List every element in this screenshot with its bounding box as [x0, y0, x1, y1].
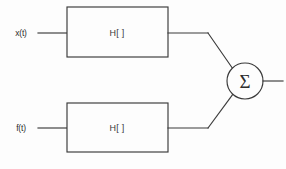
wire-top-filter-to-adder: [208, 33, 233, 69]
wire-bottom-filter-to-adder: [208, 94, 233, 128]
sigma-symbol: Σ: [239, 71, 250, 92]
block-label-top-filter: H[ ]: [109, 28, 124, 38]
block-label-bottom-filter: H[ ]: [109, 123, 124, 133]
diagram-canvas: x(t) f(t) H[ ] H[ ] Σ: [0, 0, 286, 169]
input-label-f: f(t): [16, 123, 26, 133]
input-label-x: x(t): [15, 28, 27, 38]
block-diagram: x(t) f(t) H[ ] H[ ] Σ: [0, 0, 286, 169]
